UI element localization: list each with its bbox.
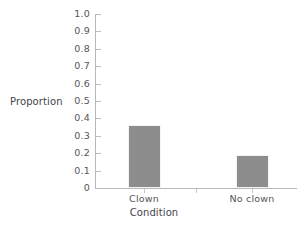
y-axis-tick [96, 84, 101, 85]
y-axis-tick-label: 0.1 [60, 166, 90, 176]
y-axis-tick-label-wrap: 0.9 [57, 26, 90, 36]
y-axis-tick-label: 0.5 [60, 96, 90, 106]
x-axis-tick-midpoint [196, 189, 197, 193]
bar-clown [128, 125, 161, 188]
y-axis-tick [96, 14, 101, 15]
y-axis-tick-label-wrap: 0.4 [57, 113, 90, 123]
y-axis-tick-label-wrap: 0.8 [57, 44, 90, 54]
y-axis-tick [96, 153, 101, 154]
y-axis-tick-label: 1.0 [60, 9, 90, 19]
y-axis-tick-label-wrap: 0.2 [57, 148, 90, 158]
y-axis-tick-label: 0.6 [60, 79, 90, 89]
bar-chart: Proportion 1.00.90.80.70.60.50.40.30.20.… [0, 0, 308, 227]
y-axis-tick-label: 0.7 [60, 61, 90, 71]
y-axis-tick [96, 118, 101, 119]
y-axis-tick [96, 66, 101, 67]
y-axis-tick-label: 0.3 [60, 131, 90, 141]
y-axis-tick-label: 0.8 [60, 44, 90, 54]
y-axis-tick-label-wrap: 1.0 [57, 9, 90, 19]
category-label-clown: Clown [104, 193, 184, 205]
y-axis-tick-label: 0.2 [60, 148, 90, 158]
y-axis-tick-label-wrap: 0.1 [57, 166, 90, 176]
y-axis-title: Proportion [10, 96, 63, 108]
y-axis-tick-label-wrap: 0.5 [57, 96, 90, 106]
category-label-no-clown: No clown [212, 193, 292, 205]
y-axis-tick-label-wrap: 0.6 [57, 79, 90, 89]
y-axis-tick-label-wrap: 0 [57, 183, 90, 193]
y-axis-tick-label: 0.4 [60, 113, 90, 123]
y-axis-tick-label-wrap: 0.7 [57, 61, 90, 71]
y-axis-tick [96, 188, 101, 189]
bar-no-clown [236, 155, 269, 188]
y-axis-tick-label: 0 [60, 183, 90, 193]
y-axis-tick [96, 101, 101, 102]
y-axis-tick [96, 31, 101, 32]
y-axis-tick [96, 136, 101, 137]
y-axis-tick-label: 0.9 [60, 26, 90, 36]
y-axis-tick [96, 171, 101, 172]
x-axis-title: Condition [0, 207, 308, 219]
y-axis-tick-label-wrap: 0.3 [57, 131, 90, 141]
y-axis-tick [96, 49, 101, 50]
